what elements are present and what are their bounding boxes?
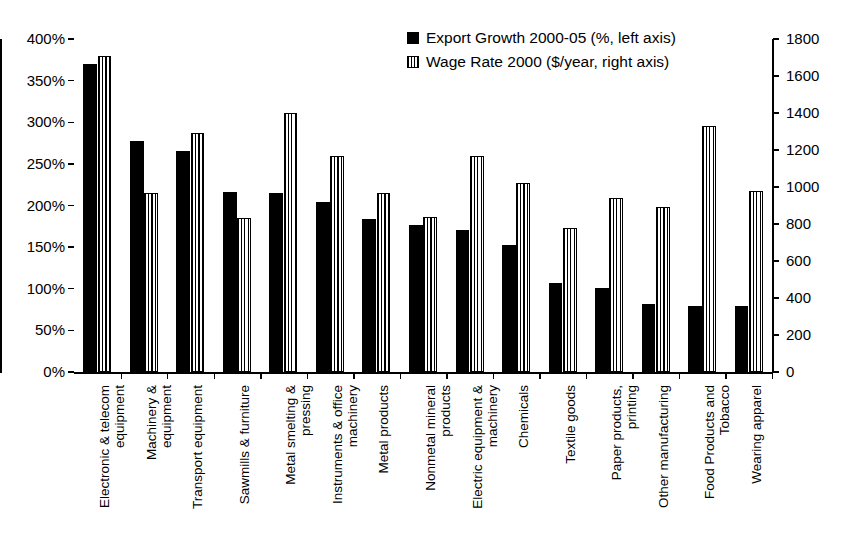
right-axis-tick [773, 38, 779, 39]
bar-wage-rate [702, 126, 716, 372]
bar-export-growth [502, 245, 516, 372]
category-label: Instruments & office machinery [330, 385, 360, 545]
right-axis-tick [773, 75, 779, 76]
bar-export-growth [735, 306, 749, 372]
left-axis-tick-label: 100% [27, 281, 65, 296]
bar-wage-rate [377, 193, 391, 372]
right-axis-tick [773, 260, 779, 261]
bar-export-growth [595, 288, 609, 372]
category-label: Food Products and Tobacco [702, 385, 732, 545]
x-axis-tick [121, 373, 122, 379]
category-label: Nonmetal mineral products [423, 385, 453, 545]
bar-export-growth [316, 202, 330, 372]
bar-wage-rate [749, 191, 763, 372]
bar-wage-rate [516, 183, 530, 372]
right-axis-tick [773, 186, 779, 187]
left-axis-tick-label: 0% [43, 364, 65, 379]
x-axis-tick [539, 373, 540, 379]
left-axis-tick-label: 150% [27, 239, 65, 254]
bar-wage-rate [98, 56, 112, 372]
category-label: Metal smelting & pressing [283, 385, 313, 545]
bar-chart: Export Growth 2000-05 (%, left axis) Wag… [0, 0, 860, 547]
left-axis-tick-label: 400% [27, 31, 65, 46]
x-axis-tick [167, 373, 168, 379]
category-label: Machinery & equipment [144, 385, 174, 545]
bar-wage-rate [237, 218, 251, 372]
right-axis-tick-label: 600 [786, 253, 811, 268]
bar-export-growth [176, 151, 190, 372]
category-label: Electronic & telecom equipment [97, 385, 127, 545]
bar-export-growth [409, 225, 423, 372]
bar-wage-rate [144, 193, 158, 372]
bar-export-growth [269, 193, 283, 372]
plot-area [74, 39, 772, 372]
right-axis-tick [773, 112, 779, 113]
right-axis-tick-label: 400 [786, 290, 811, 305]
bar-wage-rate [470, 156, 484, 372]
bar-export-growth [362, 219, 376, 372]
right-axis-tick-label: 1600 [786, 68, 819, 83]
category-label: Chemicals [516, 385, 531, 545]
category-label: Wearing apparel [749, 385, 764, 545]
bar-export-growth [642, 304, 656, 372]
bar-export-growth [83, 64, 97, 372]
right-axis-tick-label: 1800 [786, 31, 819, 46]
left-axis-tick-label: 250% [27, 156, 65, 171]
category-label: Transport equipment [190, 385, 205, 545]
x-axis-tick [772, 373, 773, 379]
right-axis-tick [773, 371, 779, 372]
category-label: Paper products, printing [609, 385, 639, 545]
left-axis-tick-label: 350% [27, 73, 65, 88]
bar-wage-rate [609, 198, 623, 372]
category-label: Textile goods [563, 385, 578, 545]
bar-wage-rate [284, 113, 298, 372]
category-label: Other manufacturing [656, 385, 671, 545]
right-axis-tick [773, 297, 779, 298]
bar-export-growth [549, 283, 563, 372]
bar-wage-rate [656, 207, 670, 372]
bar-wage-rate [563, 228, 577, 372]
right-axis-tick-label: 200 [786, 327, 811, 342]
x-axis-tick [725, 373, 726, 379]
bar-wage-rate [191, 133, 205, 372]
left-axis-tick-label: 300% [27, 114, 65, 129]
category-label: Metal products [376, 385, 391, 545]
x-axis-tick [400, 373, 401, 379]
bar-wage-rate [423, 217, 437, 372]
x-axis-tick [214, 373, 215, 379]
bar-wage-rate [330, 156, 344, 372]
category-label: Sawmills & furniture [237, 385, 252, 545]
right-axis-tick-label: 1200 [786, 142, 819, 157]
x-axis-tick [679, 373, 680, 379]
right-axis-tick-label: 1000 [786, 179, 819, 194]
right-axis-tick [773, 223, 779, 224]
x-axis-tick [260, 373, 261, 379]
x-axis-tick [446, 373, 447, 379]
x-axis-tick [353, 373, 354, 379]
right-axis-tick [773, 334, 779, 335]
x-axis-tick [493, 373, 494, 379]
right-axis-tick-label: 1400 [786, 105, 819, 120]
right-axis-tick-label: 800 [786, 216, 811, 231]
x-axis-tick [632, 373, 633, 379]
x-axis-line [74, 372, 773, 374]
left-axis-tick-label: 200% [27, 198, 65, 213]
bar-export-growth [688, 306, 702, 372]
bar-export-growth [223, 192, 237, 372]
right-axis-line [772, 39, 774, 373]
right-axis-tick-label: 0 [786, 364, 794, 379]
bar-export-growth [456, 230, 470, 372]
bar-export-growth [130, 141, 144, 372]
category-label: Electric equipment & machinery [470, 385, 500, 545]
x-axis-tick [586, 373, 587, 379]
left-axis-tick-label: 50% [35, 322, 65, 337]
left-axis-line [0, 39, 2, 373]
x-axis-tick [307, 373, 308, 379]
right-axis-tick [773, 149, 779, 150]
